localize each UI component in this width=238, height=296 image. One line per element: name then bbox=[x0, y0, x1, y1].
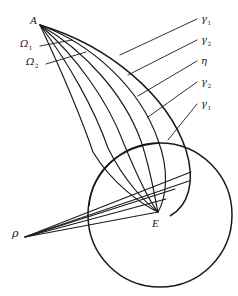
label-omega-2-subscript: 2 bbox=[34, 63, 38, 69]
label-curve-gamma-2-lower: γ2 bbox=[201, 77, 211, 90]
label-curve-gamma-2-lower-subscript: 2 bbox=[207, 83, 211, 89]
leader-gamma1-upper bbox=[120, 19, 197, 55]
label-curve-gamma-2-upper-subscript: 2 bbox=[207, 41, 211, 47]
label-curve-gamma-1-lower-subscript: 1 bbox=[207, 105, 211, 111]
label-omega-2: Ω2 bbox=[26, 57, 39, 70]
label-point-rho: ρ bbox=[12, 228, 18, 239]
leader-eta bbox=[138, 61, 197, 96]
label-curve-gamma-1-lower: γ1 bbox=[201, 99, 211, 112]
ray-bundle-rho bbox=[25, 172, 191, 237]
curve-eta bbox=[40, 25, 158, 212]
curve-gamma2-lower bbox=[40, 25, 158, 212]
label-point-e: E bbox=[152, 218, 159, 229]
leader-gamma2-upper bbox=[128, 40, 197, 75]
label-curve-eta-subscript bbox=[207, 62, 208, 68]
curve-gamma1-lower bbox=[40, 25, 158, 212]
inner-cap-arc bbox=[89, 143, 160, 206]
leader-gamma2-lower bbox=[148, 82, 197, 117]
label-curve-gamma-2-upper: γ2 bbox=[201, 35, 211, 48]
label-omega-1: Ω1 bbox=[20, 39, 33, 52]
leader-lines-right bbox=[120, 19, 197, 140]
label-curve-gamma-1-upper-subscript: 1 bbox=[207, 20, 211, 26]
label-omega-1-subscript: 1 bbox=[28, 45, 32, 51]
curve-gamma2-upper bbox=[40, 25, 158, 212]
outer-boundary-arc bbox=[40, 25, 190, 216]
main-circle bbox=[88, 143, 232, 287]
label-curve-eta: η bbox=[201, 56, 208, 69]
ray-rho-1 bbox=[25, 172, 191, 237]
label-curve-gamma-1-upper: γ1 bbox=[201, 14, 211, 27]
leader-lines-left bbox=[40, 40, 86, 64]
label-point-a: A bbox=[30, 15, 37, 26]
ray-rho-4 bbox=[25, 199, 166, 237]
